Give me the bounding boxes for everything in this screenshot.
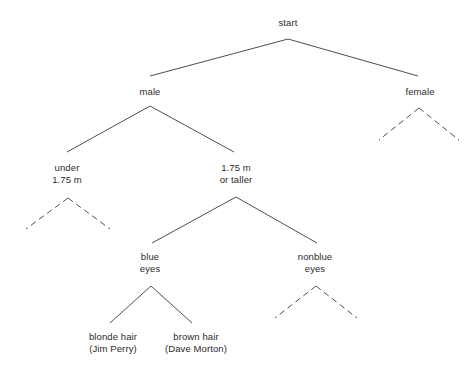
tree-edge-start-female xyxy=(288,39,418,76)
tree-node-start: start xyxy=(279,17,298,29)
tree-edge-female-right-elided xyxy=(419,108,459,140)
tree-node-175-or-taller: 1.75 mor taller xyxy=(220,162,253,185)
tree-node-female: female xyxy=(405,86,434,98)
tree-node-label-line1: 1.75 m xyxy=(221,162,251,173)
tree-node-blonde-hair: blonde hair(Jim Perry) xyxy=(89,331,137,354)
tree-node-label-line1: start xyxy=(279,17,298,28)
tree-edge-under175-right-elided xyxy=(68,198,110,229)
tree-node-label-line1: brown hair xyxy=(173,331,218,342)
tree-node-label-line2: (Dave Morton) xyxy=(165,343,227,355)
tree-edge-nonblue-left-elided xyxy=(275,286,316,318)
decision-tree-diagram: startmalefemaleunder1.75 m1.75 mor talle… xyxy=(0,0,476,376)
tree-node-label-line1: nonblue xyxy=(298,251,333,262)
tree-edge-male-under175 xyxy=(67,106,150,152)
tree-node-brown-hair: brown hair(Dave Morton) xyxy=(165,331,227,354)
tree-node-under-175: under1.75 m xyxy=(52,162,82,185)
tree-node-label-line2: (Jim Perry) xyxy=(89,343,137,355)
tree-node-label-line2: eyes xyxy=(140,263,160,275)
tree-node-nonblue-eyes: nonblueeyes xyxy=(298,251,333,274)
tree-node-label-line1: male xyxy=(140,86,161,97)
tree-edge-blue-blonde xyxy=(110,286,151,323)
tree-edge-taller-blue xyxy=(152,197,236,243)
tree-node-male: male xyxy=(140,86,161,98)
tree-node-label-line2: 1.75 m xyxy=(52,174,82,186)
tree-edge-under175-left-elided xyxy=(26,198,68,229)
tree-edge-start-male xyxy=(150,39,288,76)
tree-node-label-line2: or taller xyxy=(220,174,253,186)
tree-edge-nonblue-right-elided xyxy=(316,286,357,318)
tree-node-label-line1: blue xyxy=(141,251,159,262)
tree-node-blue-eyes: blueeyes xyxy=(140,251,160,274)
tree-edges-canvas xyxy=(0,0,476,376)
tree-edge-female-left-elided xyxy=(379,108,419,140)
tree-node-label-line2: eyes xyxy=(298,263,333,275)
tree-node-label-line1: blonde hair xyxy=(89,331,137,342)
tree-edge-male-175ortaller xyxy=(150,106,234,152)
tree-edge-taller-nonblue xyxy=(236,197,317,243)
tree-edge-blue-brown xyxy=(151,286,192,323)
tree-node-label-line1: under xyxy=(55,162,80,173)
tree-node-label-line1: female xyxy=(405,86,434,97)
